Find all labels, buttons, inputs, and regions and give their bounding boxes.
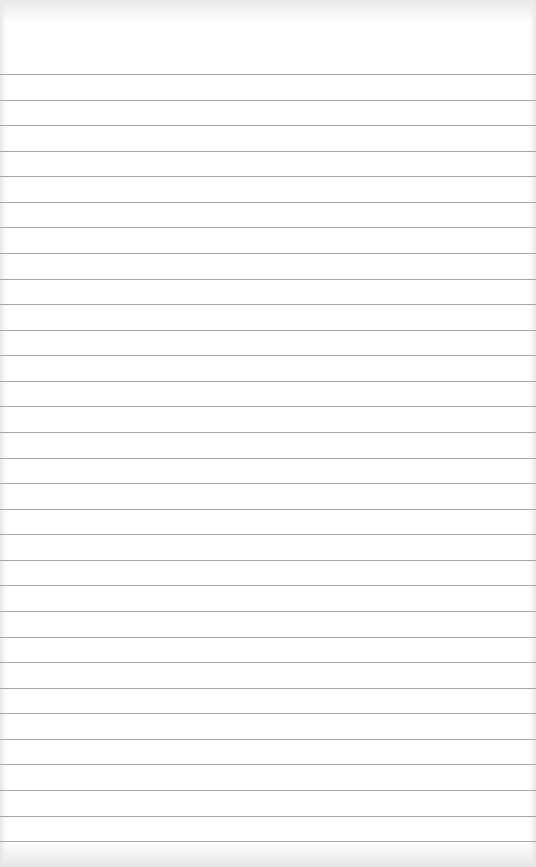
ruled-line [0, 227, 536, 228]
ruled-line [0, 74, 536, 75]
ruled-line [0, 176, 536, 177]
ruled-line [0, 432, 536, 433]
ruled-line [0, 202, 536, 203]
ruled-line [0, 713, 536, 714]
ruled-line [0, 279, 536, 280]
ruled-line [0, 355, 536, 356]
ruled-line [0, 662, 536, 663]
ruled-line [0, 739, 536, 740]
ruled-line [0, 764, 536, 765]
ruled-line [0, 330, 536, 331]
ruled-line [0, 560, 536, 561]
ruled-line [0, 790, 536, 791]
ruled-line [0, 534, 536, 535]
ruled-line [0, 100, 536, 101]
ruled-line [0, 816, 536, 817]
lined-paper-sheet [0, 0, 536, 867]
ruled-line [0, 483, 536, 484]
top-edge-shadow [0, 0, 536, 22]
ruled-line [0, 637, 536, 638]
ruled-line [0, 381, 536, 382]
ruled-line [0, 688, 536, 689]
ruled-line [0, 611, 536, 612]
ruled-line [0, 151, 536, 152]
ruled-line [0, 406, 536, 407]
ruled-line [0, 841, 536, 842]
ruled-line [0, 509, 536, 510]
ruled-line [0, 253, 536, 254]
ruled-line [0, 304, 536, 305]
ruled-line [0, 585, 536, 586]
ruled-line [0, 125, 536, 126]
ruled-line [0, 458, 536, 459]
bottom-edge-shadow [0, 843, 536, 867]
